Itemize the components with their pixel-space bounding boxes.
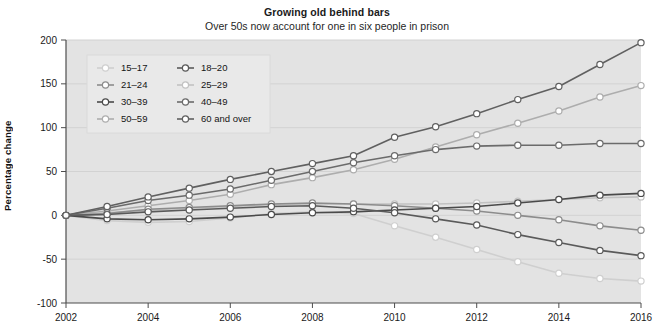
series-marker	[104, 211, 110, 217]
y-tick-label: 200	[40, 35, 57, 46]
series-marker	[145, 209, 151, 215]
series-marker	[597, 275, 603, 281]
legend-swatch-marker	[182, 116, 188, 122]
series-marker	[556, 217, 562, 223]
legend-entry-label: 40–49	[201, 96, 227, 107]
x-tick-label: 2010	[383, 312, 406, 323]
legend-entry-label: 50–59	[121, 113, 147, 124]
series-marker	[597, 247, 603, 253]
legend-entry-label: 15–17	[121, 62, 147, 73]
series-marker	[638, 40, 644, 46]
series-marker	[309, 210, 315, 216]
series-marker	[391, 223, 397, 229]
legend-entry-label: 25–29	[201, 79, 227, 90]
legend-entry-label: 30–39	[121, 96, 147, 107]
series-marker	[597, 61, 603, 67]
y-tick-label: 0	[51, 210, 57, 221]
legend-swatch-marker	[102, 65, 108, 71]
series-marker	[186, 207, 192, 213]
series-marker	[186, 192, 192, 198]
series-marker	[63, 212, 69, 218]
series-marker	[268, 203, 274, 209]
chart-root: Growing old behind bars Over 50s now acc…	[0, 0, 654, 335]
series-marker	[556, 196, 562, 202]
line-chart-plot: -100-50050100150200 20022004200620082010…	[0, 0, 654, 335]
series-marker	[309, 168, 315, 174]
series-marker	[556, 108, 562, 114]
legend-entry-label: 60 and over	[201, 113, 251, 124]
series-marker	[638, 82, 644, 88]
y-tick-label: -100	[37, 298, 57, 309]
x-tick-label: 2012	[466, 312, 489, 323]
x-tick-label: 2006	[219, 312, 242, 323]
legend-swatch-marker	[102, 116, 108, 122]
series-marker	[227, 205, 233, 211]
series-marker	[227, 176, 233, 182]
series-marker	[433, 234, 439, 240]
series-marker	[350, 205, 356, 211]
series-marker	[391, 210, 397, 216]
series-marker	[474, 111, 480, 117]
legend-swatch-marker	[182, 82, 188, 88]
x-tick-label: 2002	[55, 312, 78, 323]
series-marker	[556, 83, 562, 89]
series-marker	[515, 120, 521, 126]
series-marker	[556, 142, 562, 148]
series-marker	[515, 142, 521, 148]
series-marker	[391, 134, 397, 140]
series-marker	[597, 94, 603, 100]
series-marker	[474, 203, 480, 209]
series-marker	[638, 253, 644, 259]
series-marker	[145, 217, 151, 223]
legend-swatch-marker	[182, 65, 188, 71]
legend-swatch-marker	[102, 82, 108, 88]
legend-swatch-marker	[182, 99, 188, 105]
legend-entry-label: 18–20	[201, 62, 227, 73]
series-marker	[515, 259, 521, 265]
y-tick-label: 150	[40, 78, 57, 89]
series-marker	[474, 132, 480, 138]
x-tick-label: 2016	[630, 312, 653, 323]
series-marker	[186, 216, 192, 222]
series-marker	[391, 153, 397, 159]
series-marker	[515, 97, 521, 103]
series-marker	[638, 190, 644, 196]
series-marker	[638, 278, 644, 284]
series-marker	[638, 140, 644, 146]
series-marker	[309, 203, 315, 209]
series-marker	[515, 212, 521, 218]
series-marker	[474, 222, 480, 228]
series-marker	[350, 153, 356, 159]
x-tick-label: 2014	[548, 312, 571, 323]
series-marker	[515, 232, 521, 238]
x-tick-label: 2008	[301, 312, 324, 323]
series-marker	[474, 143, 480, 149]
series-marker	[638, 227, 644, 233]
y-axis-ticks: -100-50050100150200	[37, 35, 66, 309]
series-marker	[268, 168, 274, 174]
series-marker	[556, 239, 562, 245]
series-marker	[350, 160, 356, 166]
series-marker	[433, 205, 439, 211]
series-marker	[227, 214, 233, 220]
series-marker	[145, 194, 151, 200]
series-marker	[597, 223, 603, 229]
legend-swatch-marker	[102, 99, 108, 105]
series-marker	[268, 211, 274, 217]
series-marker	[474, 246, 480, 252]
series-marker	[186, 185, 192, 191]
chart-legend: 15–1718–2021–2425–2930–3940–4950–5960 an…	[87, 55, 270, 133]
series-marker	[268, 177, 274, 183]
y-tick-label: -50	[43, 254, 58, 265]
series-marker	[433, 146, 439, 152]
series-marker	[104, 203, 110, 209]
series-marker	[309, 175, 315, 181]
y-tick-label: 100	[40, 122, 57, 133]
x-axis-ticks: 20022004200620082010201220142016	[55, 303, 653, 323]
series-marker	[309, 161, 315, 167]
series-marker	[433, 216, 439, 222]
y-tick-label: 50	[46, 166, 58, 177]
series-marker	[227, 186, 233, 192]
series-marker	[433, 124, 439, 130]
series-marker	[515, 200, 521, 206]
